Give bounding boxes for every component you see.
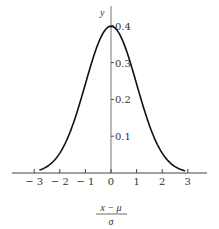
y-axis-label: y: [99, 7, 105, 18]
normal-density-curve: [39, 26, 185, 171]
x-tick-label: − 2: [51, 176, 69, 187]
y-axis-ticks: 0.10.20.30.4: [111, 21, 131, 142]
x-tick-label: 0: [108, 176, 114, 187]
x-tick-label: 2: [159, 176, 165, 187]
x-axis-label-numerator: x − μ: [99, 202, 121, 213]
normal-distribution-chart: − 3− 2− 10123 0.10.20.30.4 y x − μ σ: [0, 0, 219, 229]
x-tick-label: − 1: [76, 176, 94, 187]
y-tick-label: 0.1: [115, 131, 131, 142]
x-axis-label: x − μ σ: [96, 202, 127, 227]
x-axis-ticks: − 3− 2− 10123: [25, 169, 191, 187]
x-tick-label: 1: [133, 176, 139, 187]
y-tick-label: 0.2: [115, 94, 131, 105]
x-axis-label-denominator: σ: [109, 216, 115, 227]
x-tick-label: − 3: [25, 176, 43, 187]
x-tick-label: 3: [185, 176, 191, 187]
